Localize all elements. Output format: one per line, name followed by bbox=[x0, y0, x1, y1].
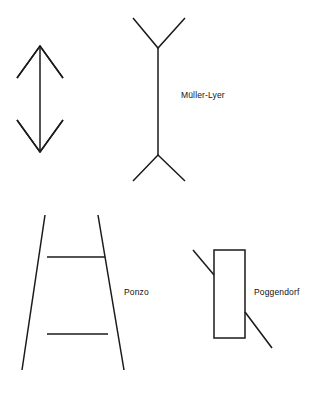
poggendorf-figure bbox=[193, 250, 272, 348]
muller-lyer-label: Müller-Lyer bbox=[181, 91, 225, 100]
poggendorf-label: Poggendorf bbox=[254, 288, 299, 297]
muller-lyer-fins-bottom bbox=[133, 155, 185, 181]
poggendorf-rectangle bbox=[214, 250, 245, 338]
ponzo-rail-right bbox=[98, 215, 124, 370]
ponzo-label: Ponzo bbox=[124, 288, 149, 297]
muller-lyer-figure bbox=[133, 18, 185, 181]
ponzo-rail-left bbox=[22, 215, 45, 370]
double-headed-arrow-figure bbox=[17, 46, 63, 152]
poggendorf-diagonal-lower bbox=[245, 312, 272, 348]
illusions-figure-page: { "figure": { "background_color": "#ffff… bbox=[0, 0, 320, 397]
poggendorf-diagonal-upper bbox=[193, 250, 214, 275]
muller-lyer-fins-top bbox=[133, 18, 185, 48]
illusions-diagram bbox=[0, 0, 320, 397]
ponzo-figure bbox=[22, 215, 124, 370]
